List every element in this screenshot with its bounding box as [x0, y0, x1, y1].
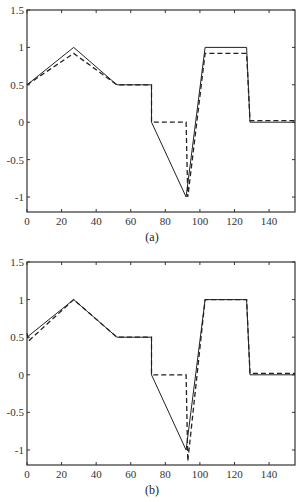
- series-true: [27, 47, 295, 197]
- x-tick-label: 0: [24, 468, 30, 480]
- x-tick-label: 20: [56, 215, 68, 227]
- y-tick-label: -1: [15, 444, 24, 456]
- y-tick-label: 1: [19, 41, 25, 53]
- y-tick-label: 0: [19, 369, 25, 381]
- x-tick-label: 80: [160, 215, 172, 227]
- y-tick-label: -1: [15, 191, 24, 203]
- y-tick-label: 0.5: [10, 331, 24, 343]
- x-tick-label: 100: [192, 215, 209, 227]
- y-tick-label: 0.5: [10, 79, 24, 91]
- x-tick-label: 100: [192, 468, 209, 480]
- y-tick-label: -0.5: [7, 406, 25, 418]
- plot-b: 0204060801001201401.510.50-0.5-1: [0, 250, 304, 484]
- x-tick-label: 0: [24, 215, 30, 227]
- caption-a: (a): [0, 230, 304, 245]
- caption-b: (b): [0, 483, 304, 498]
- chart-b: 0204060801001201401.510.50-0.5-1 (b): [0, 250, 304, 502]
- plot-a: 0204060801001201401.510.50-0.5-1: [0, 0, 304, 232]
- x-tick-label: 60: [125, 468, 137, 480]
- chart-a: 0204060801001201401.510.50-0.5-1 (a): [0, 0, 304, 250]
- y-tick-label: 1.5: [10, 4, 24, 16]
- x-tick-label: 120: [226, 468, 243, 480]
- series-estimate: [27, 53, 295, 197]
- plot-frame: [27, 262, 295, 465]
- x-tick-label: 80: [160, 468, 172, 480]
- series-estimate: [27, 300, 295, 462]
- x-tick-label: 140: [261, 215, 278, 227]
- y-tick-label: -0.5: [7, 154, 25, 166]
- y-tick-label: 0: [19, 116, 25, 128]
- y-tick-label: 1: [19, 294, 25, 306]
- x-tick-label: 140: [261, 468, 278, 480]
- plot-frame: [27, 10, 295, 212]
- x-tick-label: 40: [91, 215, 103, 227]
- x-tick-label: 120: [226, 215, 243, 227]
- x-tick-label: 60: [125, 215, 137, 227]
- x-tick-label: 20: [56, 468, 68, 480]
- y-tick-label: 1.5: [10, 256, 24, 268]
- series-true: [27, 300, 295, 450]
- x-tick-label: 40: [91, 468, 103, 480]
